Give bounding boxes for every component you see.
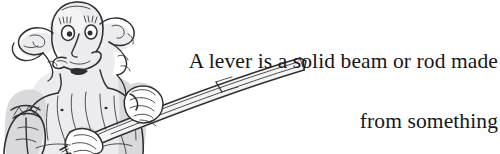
caption-line-1: A lever is a solid beam or rod made — [150, 46, 498, 76]
caption-text-block: A lever is a solid beam or rod made from… — [150, 16, 498, 154]
caption-line-2: from something — [150, 106, 498, 136]
illustration-caption-figure: A lever is a solid beam or rod made from… — [0, 0, 500, 154]
